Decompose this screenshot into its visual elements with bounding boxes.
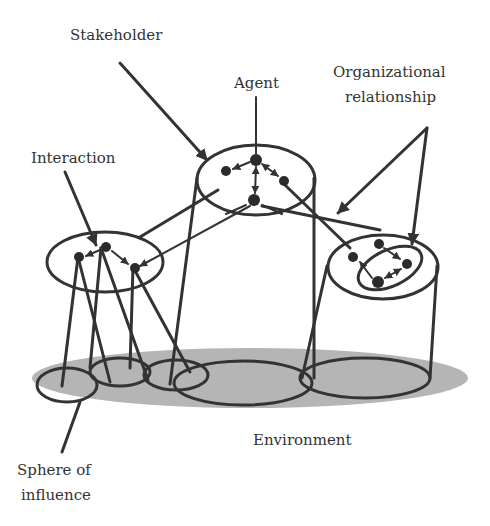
agent-node — [221, 166, 231, 176]
label-organizational-relationship-2: relationship — [345, 88, 436, 106]
agent-node — [374, 239, 384, 249]
agent-node — [74, 252, 84, 262]
label-stakeholder: Stakeholder — [70, 26, 163, 44]
right-organization — [328, 235, 438, 299]
label-environment: Environment — [253, 431, 352, 449]
agent-node — [372, 276, 384, 288]
agent-node — [279, 176, 289, 186]
label-sphere-of-influence-1: Sphere of — [17, 461, 92, 479]
label-sphere-of-influence-2: influence — [21, 486, 91, 504]
label-interaction: Interaction — [31, 149, 116, 167]
environment-plane — [32, 348, 468, 408]
agent-node — [348, 252, 358, 262]
label-agent: Agent — [233, 74, 279, 92]
agent-node — [402, 259, 412, 269]
agent-node — [248, 194, 260, 206]
agent-environment-diagram: Stakeholder Agent Organizational relatio… — [0, 0, 490, 526]
agent-node — [130, 263, 140, 273]
agent-node — [101, 242, 111, 252]
label-organizational-relationship-1: Organizational — [333, 63, 446, 81]
organizational-links — [140, 185, 380, 266]
